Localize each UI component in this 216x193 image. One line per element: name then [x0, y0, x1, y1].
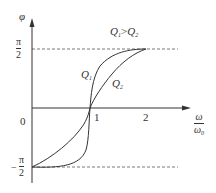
x-tick-1: 1	[94, 112, 100, 123]
phase-response-diagram	[0, 0, 216, 193]
x-tick-2: 2	[143, 112, 149, 123]
x-axis-numerator: ω	[196, 112, 203, 122]
y-tick-top-numerator: π	[16, 37, 21, 47]
y-axis-arrow-icon	[30, 18, 35, 27]
q-comparison-annotation: Q1>Q2	[110, 26, 138, 38]
y-tick-bottom-denominator: 2	[19, 168, 24, 178]
y-tick-top-denominator: 2	[16, 50, 21, 60]
curve-label-q2: Q2	[112, 78, 123, 90]
y-tick-pi-over-2: π 2	[16, 37, 21, 60]
y-axis-label: φ	[19, 11, 25, 22]
curve-label-q1: Q1	[81, 69, 92, 81]
y-tick-bottom-sign: −	[11, 163, 17, 173]
y-tick-minus-pi-over-2: π 2	[19, 155, 24, 178]
y-tick-bottom-numerator: π	[19, 155, 24, 165]
x-axis-denominator: ω0	[194, 125, 204, 136]
origin-label: 0	[20, 116, 26, 127]
x-axis-arrow-icon	[182, 106, 191, 111]
x-axis-label: ω ω0	[194, 112, 204, 136]
